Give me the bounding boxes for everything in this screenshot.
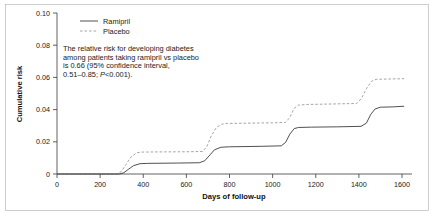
data-series-group: [57, 79, 404, 174]
legend-item-label-ramipril: Ramipril: [103, 17, 130, 26]
y-axis-tick-labels: 00.020.040.060.080.10: [36, 9, 50, 179]
x-tick-label: 1600: [394, 180, 410, 189]
x-tick-label: 800: [224, 180, 236, 189]
cumulative-risk-chart: 00.020.040.060.080.10 020040060080010001…: [0, 0, 434, 224]
y-tick-label: 0.10: [36, 9, 50, 18]
x-axis-ticks: [57, 174, 402, 178]
x-tick-label: 1000: [265, 180, 281, 189]
y-tick-label: 0.06: [36, 73, 50, 82]
annotation-line-4: 0.51–0.85; P<0.001).: [63, 70, 132, 79]
y-tick-label: 0: [46, 170, 50, 179]
annotation-p-value: <0.001).: [105, 70, 132, 79]
chart-legend: Ramipril Placebo: [80, 17, 130, 36]
x-axis-title: Days of follow-up: [202, 192, 266, 201]
x-tick-label: 600: [180, 180, 192, 189]
x-tick-label: 1400: [351, 180, 367, 189]
x-tick-label: 0: [55, 180, 59, 189]
y-tick-label: 0.04: [36, 105, 50, 114]
x-axis-tick-labels: 02004006008001000120014001600: [55, 180, 410, 189]
legend-item-label-placebo: Placebo: [103, 27, 130, 36]
x-tick-label: 400: [137, 180, 149, 189]
y-axis-title: Cumulative risk: [15, 65, 24, 122]
series-line-ramipril: [57, 106, 404, 174]
axes: [57, 13, 412, 174]
annotation-ci-range: 0.51–0.85;: [63, 70, 100, 79]
y-tick-label: 0.08: [36, 41, 50, 50]
x-tick-label: 1200: [308, 180, 324, 189]
x-tick-label: 200: [94, 180, 106, 189]
chart-annotation: The relative risk for developing diabete…: [63, 44, 199, 79]
y-tick-label: 0.02: [36, 137, 50, 146]
y-axis-ticks: [53, 13, 57, 174]
figure-container: 00.020.040.060.080.10 020040060080010001…: [0, 0, 434, 224]
